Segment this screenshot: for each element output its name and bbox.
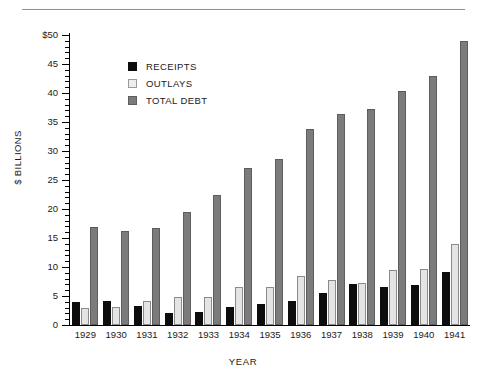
y-tick-label: 25 [22, 175, 58, 185]
bar-outlays [81, 308, 89, 325]
bar-receipts [134, 306, 142, 325]
y-tick-label: 0 [22, 320, 58, 330]
bar-outlays [174, 297, 182, 325]
bar-debt [275, 159, 283, 325]
bar-outlays [266, 287, 274, 325]
x-tick-label: 1941 [435, 330, 475, 340]
y-tick-label: 35 [22, 117, 58, 127]
bar-group [72, 35, 98, 325]
bar-debt [213, 195, 221, 326]
bar-receipts [442, 272, 450, 325]
legend-label-outlays: OUTLAYS [146, 78, 192, 89]
bar-receipts [319, 293, 327, 325]
bar-debt [244, 168, 252, 325]
bar-receipts [72, 302, 80, 325]
bar-receipts [165, 313, 173, 325]
legend-swatch-outlays-icon [128, 79, 137, 88]
bar-debt [183, 212, 191, 325]
y-tick-label: 30 [22, 146, 58, 156]
chart-figure: 051015202530354045$50 $ BILLIONS YEAR 19… [0, 0, 486, 382]
x-axis-title: YEAR [0, 356, 486, 367]
bar-outlays [420, 269, 428, 325]
bar-group [103, 35, 129, 325]
bar-group [411, 35, 437, 325]
x-axis-line [69, 325, 470, 326]
bar-outlays [235, 287, 243, 325]
bar-receipts [411, 285, 419, 325]
bar-receipts [226, 307, 234, 325]
y-tick-label: 5 [22, 291, 58, 301]
y-tick-major [62, 238, 70, 239]
legend-swatch-receipts-icon [128, 62, 137, 71]
y-tick-label: 40 [22, 88, 58, 98]
chart-legend: RECEIPTS OUTLAYS TOTAL DEBT [128, 58, 207, 109]
bar-debt [367, 109, 375, 325]
bar-receipts [195, 312, 203, 325]
bar-outlays [297, 276, 305, 325]
bar-debt [460, 41, 468, 325]
bar-receipts [103, 301, 111, 325]
y-tick-major [62, 64, 70, 65]
bar-debt [429, 76, 437, 325]
y-tick-label: 20 [22, 204, 58, 214]
bar-debt [121, 231, 129, 325]
bar-outlays [112, 307, 120, 325]
bar-group [226, 35, 252, 325]
legend-swatch-total-debt-icon [128, 96, 137, 105]
legend-label-total-debt: TOTAL DEBT [146, 95, 207, 106]
bar-outlays [389, 270, 397, 325]
y-tick-major [62, 35, 70, 36]
bar-outlays [328, 280, 336, 325]
legend-item-total-debt: TOTAL DEBT [128, 92, 207, 109]
header-divider-rule [22, 9, 465, 10]
bar-debt [337, 114, 345, 325]
bar-group [442, 35, 468, 325]
bar-group [257, 35, 283, 325]
bar-outlays [358, 283, 366, 325]
bar-receipts [349, 284, 357, 325]
bar-outlays [204, 297, 212, 325]
bar-outlays [143, 301, 151, 325]
bar-debt [152, 228, 160, 325]
bar-receipts [257, 304, 265, 325]
bar-receipts [380, 287, 388, 325]
y-tick-label: $50 [22, 30, 58, 40]
y-tick-major [62, 180, 70, 181]
y-tick-major [62, 93, 70, 94]
bar-group [319, 35, 345, 325]
legend-item-receipts: RECEIPTS [128, 58, 207, 75]
bar-group [380, 35, 406, 325]
y-axis-title: $ BILLIONS [12, 103, 23, 213]
bar-outlays [451, 244, 459, 325]
y-tick-label: 10 [22, 262, 58, 272]
bar-debt [398, 91, 406, 325]
bar-group [288, 35, 314, 325]
legend-item-outlays: OUTLAYS [128, 75, 207, 92]
legend-label-receipts: RECEIPTS [146, 61, 197, 72]
bar-receipts [288, 301, 296, 325]
bar-debt [306, 129, 314, 325]
y-tick-label: 45 [22, 59, 58, 69]
y-tick-major [62, 151, 70, 152]
bar-group [349, 35, 375, 325]
y-tick-major [62, 325, 70, 326]
bar-debt [90, 227, 98, 325]
y-tick-major [62, 209, 70, 210]
y-tick-major [62, 122, 70, 123]
y-tick-label: 15 [22, 233, 58, 243]
y-tick-major [62, 267, 70, 268]
y-tick-major [62, 296, 70, 297]
